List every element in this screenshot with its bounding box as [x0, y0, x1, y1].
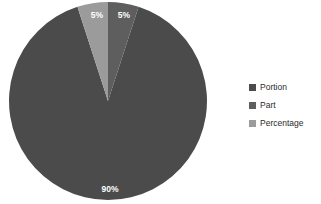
pie-slice-label-portion: 90% [101, 184, 118, 194]
legend-item-label: Portion [260, 78, 287, 96]
legend-item-label: Part [260, 96, 276, 114]
pie-slice-label-part: 5% [118, 10, 131, 20]
legend-swatch-icon [249, 84, 256, 91]
legend-item-part[interactable]: Part [249, 96, 321, 114]
pie-slice-label-percentage: 5% [91, 10, 104, 20]
legend-item-percentage[interactable]: Percentage [249, 114, 321, 132]
pie-slice-group [9, 2, 207, 200]
legend-swatch-icon [249, 120, 256, 127]
pie-chart-figure: 90%5%5% PortionPartPercentage [0, 0, 321, 204]
legend-item-label: Percentage [260, 114, 303, 132]
legend-swatch-icon [249, 102, 256, 109]
chart-legend: PortionPartPercentage [249, 78, 321, 132]
legend-item-portion[interactable]: Portion [249, 78, 321, 96]
